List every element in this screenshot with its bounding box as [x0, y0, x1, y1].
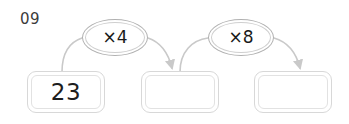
- value-box-inner-3: [258, 75, 328, 109]
- operation-label-1: ×4: [102, 29, 127, 46]
- operation-oval-multiply-by-eight: ×8: [208, 19, 274, 56]
- arrow-box1-to-box2: [62, 38, 82, 72]
- value-box-first-answer[interactable]: [141, 71, 219, 113]
- value-text-1: 23: [51, 81, 81, 104]
- operation-oval-multiply-by-four: ×4: [82, 19, 148, 56]
- function-machine-worksheet: 09 ×4 ×8 23: [0, 0, 349, 124]
- value-box-start[interactable]: 23: [27, 71, 105, 113]
- value-box-inner-2: [145, 75, 215, 109]
- operation-label-2: ×8: [228, 29, 253, 46]
- oval-inner-2: ×8: [211, 22, 271, 53]
- arrow-box2-to-box3: [180, 38, 208, 72]
- arrow-box1-to-box2-head: [148, 38, 172, 68]
- arrow-box2-to-box3-head: [274, 38, 300, 68]
- value-box-second-answer[interactable]: [254, 71, 332, 113]
- oval-inner-1: ×4: [85, 22, 145, 53]
- value-box-inner-1: 23: [31, 75, 101, 109]
